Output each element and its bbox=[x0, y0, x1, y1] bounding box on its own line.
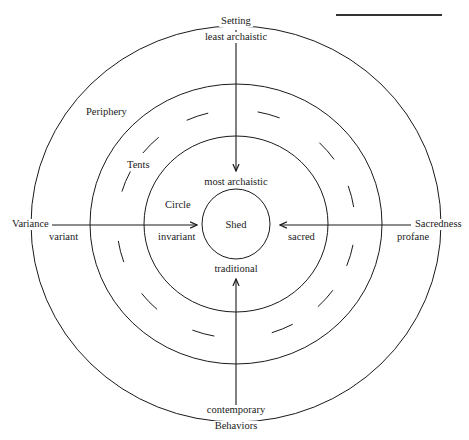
label-invariant: invariant bbox=[158, 232, 195, 243]
tent-dash bbox=[272, 324, 293, 333]
label-least-archaistic: least archaistic bbox=[203, 32, 269, 43]
tent-dash bbox=[142, 293, 158, 309]
tent-dash bbox=[348, 186, 354, 207]
tent-dash bbox=[122, 171, 130, 191]
tent-dash bbox=[143, 137, 159, 153]
tent-dash bbox=[347, 245, 353, 266]
label-variance: Variance bbox=[10, 219, 51, 230]
label-most-archaistic: most archaistic bbox=[204, 177, 267, 188]
label-sacredness: Sacredness bbox=[413, 219, 464, 230]
tent-dash bbox=[192, 330, 214, 336]
label-setting: Setting bbox=[219, 16, 253, 27]
label-variant: variant bbox=[49, 232, 78, 243]
label-circle: Circle bbox=[165, 200, 191, 211]
tent-dash bbox=[319, 143, 334, 160]
label-sacred: sacred bbox=[288, 232, 315, 243]
label-profane: profane bbox=[397, 232, 429, 243]
label-contemporary: contemporary bbox=[205, 405, 267, 416]
tent-dash bbox=[118, 241, 124, 262]
concentric-ring-diagram: Setting least archaistic Periphery Tents… bbox=[0, 0, 469, 440]
label-tents: Tents bbox=[127, 160, 150, 171]
label-behaviors: Behaviors bbox=[213, 421, 260, 432]
tent-dash bbox=[258, 112, 280, 118]
tent-dash bbox=[187, 113, 209, 120]
tent-dash bbox=[318, 290, 333, 307]
label-periphery: Periphery bbox=[86, 107, 127, 118]
label-traditional: traditional bbox=[214, 264, 257, 275]
label-shed: Shed bbox=[226, 220, 247, 231]
